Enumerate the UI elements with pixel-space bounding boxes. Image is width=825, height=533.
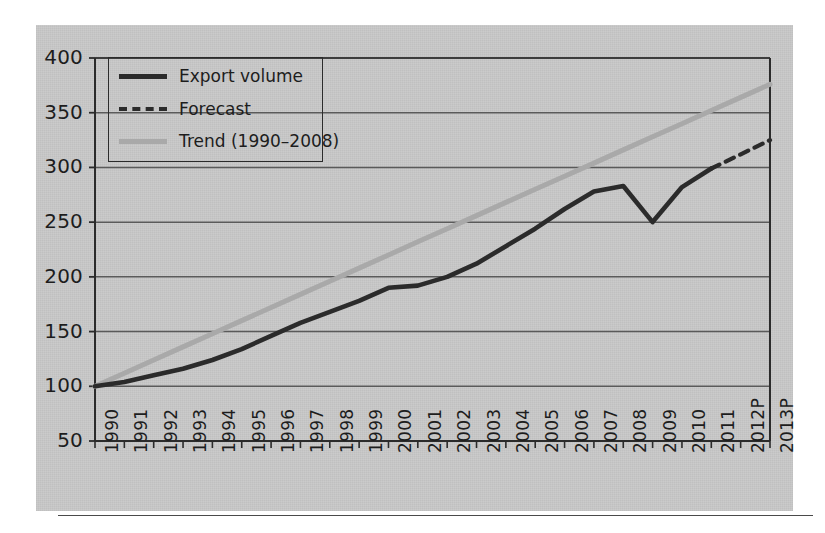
x-axis-tick-label: 2011	[718, 409, 738, 453]
x-axis-tick-label: 2000	[395, 409, 415, 453]
x-axis-tick-label: 2009	[660, 409, 680, 453]
y-axis-tick-label: 250	[29, 209, 83, 233]
x-axis-tick-label: 2004	[513, 409, 533, 453]
x-axis-tick-label: 2006	[572, 409, 592, 453]
series-forecast-line	[711, 140, 770, 168]
legend-item-forecast: Forecast	[119, 97, 251, 121]
y-axis-tick-label: 50	[29, 428, 83, 452]
y-axis-tick-label: 350	[29, 100, 83, 124]
x-axis-tick-label: 1997	[307, 409, 327, 453]
legend-label-forecast: Forecast	[179, 99, 251, 119]
x-axis-tick-label: 1990	[102, 409, 122, 453]
x-axis-tick-label: 1999	[366, 409, 386, 453]
footer-rule	[58, 515, 813, 516]
y-axis-tick-label: 300	[29, 154, 83, 178]
legend-swatch-export-volume	[119, 74, 167, 79]
legend-label-trend: Trend (1990–2008)	[179, 131, 339, 151]
x-axis-tick-label: 2008	[630, 409, 650, 453]
x-axis-tick-label: 1992	[161, 409, 181, 453]
legend-swatch-trend	[119, 139, 167, 144]
legend-item-export-volume: Export volume	[119, 64, 303, 88]
x-axis-tick-label: 2002	[454, 409, 474, 453]
x-axis-tick-label: 1994	[219, 409, 239, 453]
x-axis-tick-label: 2001	[425, 409, 445, 453]
x-axis-tick-label: 2003	[484, 409, 504, 453]
x-axis-tick-label: 1993	[190, 409, 210, 453]
x-axis-tick-label: 2007	[601, 409, 621, 453]
x-axis-tick-label: 2013P	[777, 398, 797, 453]
legend-item-trend: Trend (1990–2008)	[119, 129, 339, 153]
figure-page: 50100150200250300350400 1990199119921993…	[0, 0, 825, 533]
legend-swatch-forecast	[119, 107, 167, 111]
x-axis-tick-label: 1996	[278, 409, 298, 453]
x-axis-tick-label: 1998	[337, 409, 357, 453]
y-axis-tick-label: 400	[29, 45, 83, 69]
y-axis-tick-label: 200	[29, 264, 83, 288]
legend-label-export-volume: Export volume	[179, 66, 303, 86]
x-axis-tick-label: 1995	[249, 409, 269, 453]
x-axis-tick-label: 2010	[689, 409, 709, 453]
y-axis-tick-label: 150	[29, 319, 83, 343]
x-axis-tick-label: 1991	[131, 409, 151, 453]
legend: Export volume Forecast Trend (1990–2008)	[108, 57, 323, 162]
x-axis-tick-label: 2012P	[748, 398, 768, 453]
y-axis-tick-label: 100	[29, 373, 83, 397]
x-axis-tick-label: 2005	[542, 409, 562, 453]
